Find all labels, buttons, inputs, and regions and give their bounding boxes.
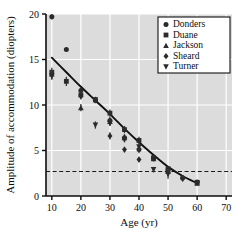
data-point [137, 138, 142, 143]
legend-marker-donders [164, 22, 169, 27]
x-tick-label: 10 [47, 202, 57, 213]
y-tick-label: 15 [29, 54, 39, 65]
data-point [64, 47, 69, 52]
data-point [93, 97, 98, 102]
y-tick-label: 20 [29, 9, 39, 20]
y-tick-label: 5 [34, 145, 39, 156]
chart-canvas: 10203040506070 05101520 Age (yr) Amplitu… [0, 0, 250, 238]
y-tick-label: 10 [29, 100, 39, 111]
x-tick-label: 60 [192, 202, 202, 213]
legend-label-duane: Duane [173, 30, 198, 40]
accommodation-amplitude-figure: 10203040506070 05101520 Age (yr) Amplitu… [0, 0, 250, 238]
legend-label-sheard: Sheard [173, 51, 200, 61]
y-tick-label: 0 [34, 191, 39, 202]
x-tick-label: 40 [134, 202, 144, 213]
y-axis-ticks: 05101520 [29, 9, 46, 202]
data-point [122, 127, 127, 132]
x-axis-title: Age (yr) [120, 216, 158, 229]
x-tick-label: 20 [76, 202, 86, 213]
x-axis-ticks: 10203040506070 [47, 196, 231, 213]
data-point [108, 111, 113, 116]
legend: DondersDuaneJacksonSheardTurner [158, 17, 230, 73]
x-tick-label: 30 [105, 202, 115, 213]
data-point [49, 14, 54, 19]
x-tick-label: 50 [163, 202, 173, 213]
legend-label-donders: Donders [173, 19, 205, 29]
legend-label-jackson: Jackson [173, 40, 203, 50]
y-axis-title: Amplitude of accommodation (diopters) [4, 16, 17, 194]
data-point [64, 79, 69, 84]
x-tick-label: 70 [221, 202, 231, 213]
legend-marker-duane [164, 33, 169, 38]
legend-label-turner: Turner [173, 61, 199, 71]
